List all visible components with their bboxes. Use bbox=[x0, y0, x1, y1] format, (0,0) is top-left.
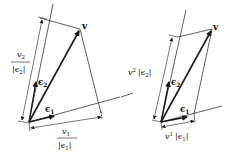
basis-e1-arrow bbox=[29, 116, 54, 122]
e1-label: ϵ1 bbox=[180, 104, 189, 115]
component1-numerator: v1 bbox=[62, 127, 70, 137]
e1-axis-back-extension bbox=[121, 93, 133, 97]
component2-label: v2|ϵ2| bbox=[128, 67, 151, 78]
component1-label: v1|ϵ1| bbox=[165, 131, 188, 142]
parallel-to-e2-line bbox=[194, 29, 212, 114]
e1-label: ϵ1 bbox=[45, 104, 54, 115]
component2-denominator: |ϵ2| bbox=[12, 65, 25, 75]
e1-dimension-line bbox=[162, 121, 194, 127]
component2-numerator: v2 bbox=[17, 50, 25, 60]
left-diagram bbox=[18, 4, 120, 131]
e2-label: ϵ2 bbox=[38, 77, 47, 88]
vector-v-label: v bbox=[81, 21, 88, 31]
component1-denominator: |ϵ1| bbox=[58, 141, 71, 151]
parallel-to-e1-line bbox=[178, 29, 212, 37]
parallel-to-e2-line bbox=[80, 29, 101, 113]
vector-v-label: v bbox=[212, 22, 219, 32]
e2-label: ϵ2 bbox=[171, 77, 180, 88]
basis-e1-arrow bbox=[161, 117, 187, 122]
right-diagram bbox=[121, 10, 222, 130]
parallel-to-e1-line bbox=[40, 18, 80, 29]
diagram-canvas: v ϵ2 ϵ1 v2 |ϵ2| v1 |ϵ1| v ϵ2 ϵ1 v2|ϵ2| bbox=[0, 0, 236, 155]
